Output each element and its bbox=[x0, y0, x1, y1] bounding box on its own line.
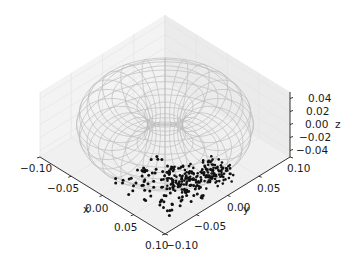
x-tick-label: −0.10 bbox=[20, 162, 52, 174]
scatter-point bbox=[171, 166, 174, 169]
scatter-point bbox=[160, 186, 163, 189]
z-tick-label: 0.04 bbox=[308, 92, 332, 104]
scatter-point bbox=[136, 169, 139, 172]
z-tick-label: 0.02 bbox=[306, 105, 329, 117]
scatter-point bbox=[214, 164, 217, 167]
scatter-point bbox=[127, 193, 130, 196]
scatter-point bbox=[179, 204, 182, 207]
scatter-point bbox=[196, 193, 199, 196]
scatter-point bbox=[162, 200, 165, 203]
scatter-point bbox=[166, 171, 169, 174]
scatter-point bbox=[181, 180, 184, 183]
scatter-point bbox=[210, 155, 213, 158]
scatter-point bbox=[147, 174, 150, 177]
scatter-point bbox=[144, 199, 147, 202]
y-axis-label: y bbox=[243, 203, 249, 215]
scatter-point bbox=[222, 182, 225, 185]
scatter-point bbox=[195, 185, 198, 188]
scatter-point bbox=[195, 176, 198, 179]
y-tick-label: −0.05 bbox=[194, 220, 226, 232]
scatter-point bbox=[228, 177, 231, 180]
scatter-point bbox=[209, 168, 212, 171]
scatter-point bbox=[213, 172, 216, 175]
z-tick-label: −0.02 bbox=[299, 131, 331, 143]
scatter-point bbox=[152, 186, 155, 189]
x-tick-label: −0.05 bbox=[47, 182, 79, 194]
scatter-point bbox=[177, 185, 180, 188]
scatter-point bbox=[163, 174, 166, 177]
scatter-point bbox=[211, 163, 214, 166]
scatter-point bbox=[202, 161, 205, 164]
scatter-point bbox=[180, 200, 183, 203]
scatter-point bbox=[160, 158, 163, 161]
scatter-point bbox=[166, 177, 169, 180]
scatter-point bbox=[141, 169, 144, 172]
scatter-point bbox=[229, 173, 232, 176]
scatter-point bbox=[172, 188, 175, 191]
scatter-point bbox=[218, 180, 221, 183]
scatter-point bbox=[190, 200, 193, 203]
scatter-point bbox=[218, 173, 221, 176]
scatter-point bbox=[212, 169, 215, 172]
scatter-point bbox=[199, 186, 202, 189]
scatter-point bbox=[160, 199, 163, 202]
scatter-point bbox=[122, 179, 125, 182]
scatter-point bbox=[201, 168, 204, 171]
scatter-point bbox=[175, 181, 178, 184]
scatter-point bbox=[161, 170, 164, 173]
scatter-point bbox=[229, 164, 232, 167]
scatter-point bbox=[216, 185, 219, 188]
scatter-point bbox=[168, 214, 171, 217]
scatter-point bbox=[217, 169, 220, 172]
scatter-point bbox=[212, 166, 215, 169]
scatter-point bbox=[182, 165, 185, 168]
scatter-point bbox=[166, 209, 169, 212]
scatter-point bbox=[225, 167, 228, 170]
scatter-point bbox=[172, 179, 175, 182]
scatter-point bbox=[181, 191, 184, 194]
scatter-point bbox=[192, 177, 195, 180]
scatter-point bbox=[130, 177, 133, 180]
scatter-point bbox=[181, 188, 184, 191]
scatter-point bbox=[140, 184, 143, 187]
z-tick-label: −0.04 bbox=[296, 144, 328, 156]
scatter-point bbox=[141, 174, 144, 177]
scatter-point bbox=[149, 194, 152, 197]
scatter-point bbox=[156, 158, 159, 161]
scatter-point bbox=[214, 178, 217, 181]
scatter-point bbox=[221, 168, 224, 171]
scatter-point bbox=[162, 206, 165, 209]
scatter-point bbox=[203, 180, 206, 183]
scatter-point bbox=[194, 188, 197, 191]
scatter-point bbox=[188, 177, 191, 180]
scatter-point bbox=[194, 179, 197, 182]
scatter-point bbox=[209, 179, 212, 182]
scatter-point bbox=[171, 203, 174, 206]
scatter-point bbox=[229, 167, 232, 170]
scatter-point bbox=[154, 172, 157, 175]
z-axis-label: z bbox=[335, 118, 341, 130]
scatter-point bbox=[203, 172, 206, 175]
scatter-point bbox=[189, 163, 192, 166]
scatter-point bbox=[151, 172, 154, 175]
scatter-point bbox=[207, 181, 210, 184]
scatter-point bbox=[132, 184, 135, 187]
scatter-point bbox=[192, 184, 195, 187]
scatter-point bbox=[148, 190, 151, 193]
scatter-point bbox=[196, 172, 199, 175]
scatter-point bbox=[230, 180, 233, 183]
scatter-point bbox=[189, 184, 192, 187]
scatter-point bbox=[177, 167, 180, 170]
scatter-point bbox=[131, 189, 134, 192]
scatter-point bbox=[183, 188, 186, 191]
scatter-point bbox=[207, 164, 210, 167]
scatter-point bbox=[135, 182, 138, 185]
scatter-point bbox=[204, 174, 207, 177]
scatter-point bbox=[169, 191, 172, 194]
scatter-point bbox=[220, 164, 223, 167]
scatter-point bbox=[222, 176, 225, 179]
x-axis-label: x bbox=[83, 203, 89, 215]
scatter-point bbox=[173, 185, 176, 188]
scatter-point bbox=[183, 183, 186, 186]
scatter-point bbox=[155, 168, 158, 171]
